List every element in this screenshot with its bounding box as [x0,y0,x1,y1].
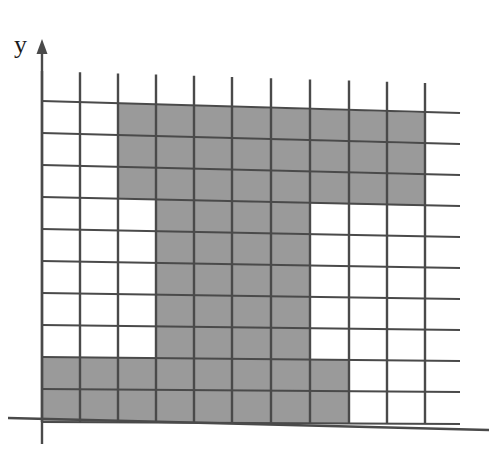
shaded-cell [349,173,387,205]
shaded-cell [42,357,80,389]
shaded-cell [232,328,271,360]
y-axis-arrow-icon [37,39,48,54]
shaded-cell [194,106,232,139]
shaded-cell [156,168,194,201]
shaded-cell [80,389,118,422]
shaded-cell [156,327,194,359]
shaded-cell [232,233,271,265]
shaded-cell [194,232,232,264]
shaded-cell [387,174,425,206]
shaded-cell [387,112,425,144]
shaded-cell [349,142,387,174]
shaded-cell [156,295,194,327]
grid-figure-svg [0,0,497,449]
shaded-cell [156,105,194,138]
shaded-cell [194,359,232,391]
shaded-cell [271,234,310,266]
shaded-cell [271,265,310,297]
shaded-cell [271,140,310,172]
shaded-cell [310,391,349,424]
figure-canvas [0,0,497,449]
shaded-cell [156,358,194,390]
shaded-cell [271,108,310,141]
shaded-cell [232,139,271,172]
shaded-cell [156,136,194,169]
shaded-cell [156,231,194,263]
shaded-cell [232,265,271,297]
shaded-cell [310,360,349,392]
shaded-cell [310,172,349,204]
shaded-cell [194,201,232,233]
shaded-cell [271,297,310,329]
shaded-cell [156,263,194,295]
shaded-cell [194,264,232,296]
shaded-cell [156,390,194,423]
shaded-cell [194,169,232,202]
shaded-cell [194,295,232,327]
shaded-cell [271,328,310,360]
shaded-cell [194,327,232,359]
shaded-cell [118,103,156,136]
shaded-cell [387,143,425,175]
shaded-cell [271,202,310,234]
shaded-cell [271,391,310,424]
shaded-cell [271,171,310,203]
shaded-cell [232,170,271,202]
shaded-cell [118,390,156,423]
shaded-cell [194,137,232,170]
shaded-cell [118,358,156,390]
shaded-cell [80,357,118,389]
shaded-cell [232,202,271,234]
shaded-cell [271,359,310,391]
shaded-cell [156,200,194,233]
shaded-cell [310,109,349,141]
shaded-cell [232,296,271,328]
shaded-cell [232,391,271,424]
y-axis-label: y [14,32,27,58]
shaded-cell [194,390,232,423]
shaded-cell [310,141,349,173]
shaded-cell [42,389,80,422]
shaded-cell [232,107,271,140]
shaded-cell [118,135,156,168]
shaded-cell [118,167,156,200]
shaded-cell [349,111,387,143]
shaded-cell [232,359,271,391]
